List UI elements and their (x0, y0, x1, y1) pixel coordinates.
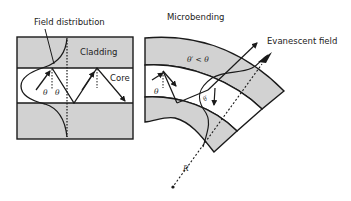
cladding-label: Cladding (80, 47, 117, 57)
straight-fiber: Field distribution Cladding Core θ θ (17, 17, 133, 139)
bend-center-dot (171, 185, 174, 188)
theta-label-1: θ (43, 88, 48, 97)
field-distribution-label: Field distribution (34, 17, 105, 27)
microbending-label: Microbending (167, 12, 224, 22)
theta-label-bent: θ (154, 87, 159, 96)
bottom-cladding (17, 103, 133, 139)
evanescent-field-label: Evanescent field (267, 36, 337, 46)
bent-fiber: R Microbending Evanescent field θ′ < θ θ… (145, 12, 337, 189)
theta-label-2: θ (55, 88, 60, 97)
fiber-diagram: Field distribution Cladding Core θ θ R M… (0, 0, 351, 201)
core-label: Core (110, 73, 130, 83)
radius-label: R (182, 164, 189, 173)
angle-relation-label: θ′ < θ (187, 55, 209, 64)
